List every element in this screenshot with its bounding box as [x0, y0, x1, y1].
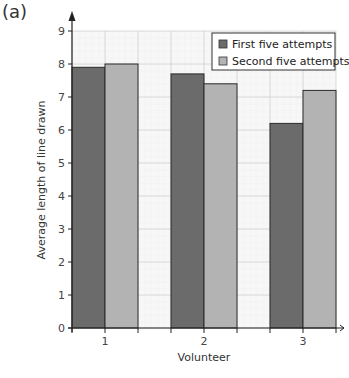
bar-1-second: [105, 64, 138, 328]
y-tick-label: 0: [58, 322, 65, 335]
bar-3-first: [270, 123, 303, 328]
y-tick-label: 5: [58, 157, 65, 170]
bar-3-second: [303, 90, 336, 328]
legend-item-label: First five attempts: [232, 38, 332, 51]
legend-item-label: Second five attempts: [232, 55, 349, 68]
y-tick-label: 8: [58, 58, 65, 71]
x-tick-label: 1: [102, 335, 109, 348]
x-tick-label: 3: [300, 335, 307, 348]
y-tick-label: 3: [58, 223, 65, 236]
bar-chart: 0123456789123 First five attemptsSecond …: [0, 0, 349, 378]
y-tick-label: 4: [58, 190, 65, 203]
bar-2-second: [204, 84, 237, 328]
y-tick-label: 6: [58, 124, 65, 137]
y-tick-label: 1: [58, 289, 65, 302]
x-tick-label: 2: [201, 335, 208, 348]
bar-1-first: [72, 67, 105, 328]
y-tick-label: 7: [58, 91, 65, 104]
x-axis-title: Volunteer: [178, 351, 231, 364]
y-tick-label: 2: [58, 256, 65, 269]
y-axis-title: Average length of line drawn: [35, 101, 48, 260]
bar-2-first: [171, 74, 204, 328]
legend: First five attemptsSecond five attempts: [212, 33, 349, 70]
y-tick-label: 9: [58, 25, 65, 38]
